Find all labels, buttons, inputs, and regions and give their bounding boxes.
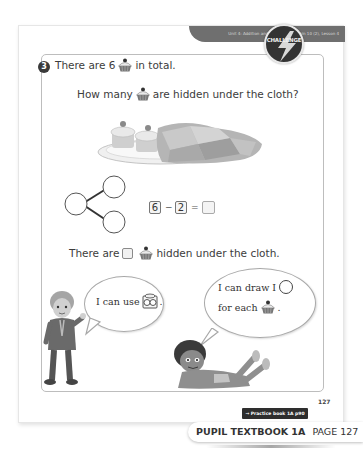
equation-result-box[interactable] — [202, 201, 215, 214]
line2-pre: How many — [77, 88, 133, 100]
circle-icon — [278, 279, 294, 295]
equation-equals: = — [191, 202, 199, 212]
book-label: PUPIL TEXTBOOK 1A — [196, 426, 305, 437]
line1-post: in total. — [135, 59, 175, 71]
cupcake-icon — [138, 246, 154, 260]
question-number: 3 — [38, 61, 50, 73]
page-number: 127 — [318, 398, 331, 405]
answer-pre: There are — [69, 247, 119, 259]
whole-circle — [65, 193, 87, 215]
lightning-bolt-icon — [266, 26, 304, 64]
challenge-label: CHALLENGE — [266, 37, 302, 43]
challenge-badge: CHALLENGE — [264, 24, 304, 64]
pupil-textbook-label: PUPIL TEXTBOOK 1A PAGE 127 — [188, 422, 363, 442]
practice-book-link[interactable]: → Practice book 1A p90 — [242, 408, 308, 419]
question-line-1: There are 6 in total. — [55, 58, 176, 72]
cupcake-icon — [135, 87, 151, 101]
equation-operand-a: 6 — [149, 201, 161, 214]
answer-post: hidden under the cloth. — [156, 247, 279, 259]
answer-input-box[interactable] — [122, 248, 133, 259]
footer-shadow — [206, 445, 336, 448]
question-line-2: How many are hidden under the cloth? — [77, 87, 299, 101]
equation-operand-b: 2 — [175, 201, 187, 214]
boy-standing-character — [42, 288, 90, 388]
equation-operator: − — [165, 202, 173, 212]
ten-frame-counter-icon — [141, 292, 159, 310]
line2-post: are hidden under the cloth? — [153, 88, 299, 100]
speech-right-line-1: I can draw I — [218, 279, 294, 295]
cupcake-icon — [117, 58, 133, 72]
answer-line: There are hidden under the cloth. — [69, 246, 280, 260]
cupcakes-cloth-illustration — [90, 118, 270, 168]
part-circle-bottom — [103, 211, 125, 233]
speech-right-line-2: for each . — [218, 300, 281, 314]
page-label: PAGE 127 — [312, 426, 358, 437]
boy-lying-character — [168, 336, 278, 392]
part-circle-top — [103, 176, 125, 198]
speech-left-text: I can use . — [96, 292, 163, 310]
cupcake-icon — [260, 300, 276, 314]
line1-pre: There are 6 — [55, 59, 115, 71]
part-whole-model[interactable] — [62, 174, 132, 236]
